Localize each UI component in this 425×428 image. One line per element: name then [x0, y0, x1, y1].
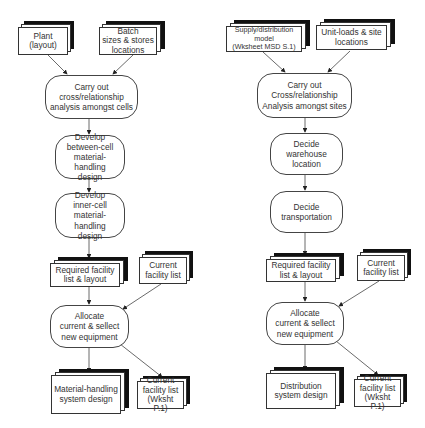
input-unit-loads-site-locations: Unit-loads & site locations — [316, 19, 395, 51]
input-supply-distribution-model: Supply/distribution model (Wksheet MSD S… — [226, 20, 310, 52]
arrow-unitloads-to-carry-out — [328, 51, 350, 72]
doc-current-facility-list: Current facility list — [139, 251, 193, 284]
arrow-plant-to-carry-out — [48, 55, 67, 74]
output-current-facility-list: Current facility list (Wksht P.1) — [137, 376, 190, 409]
output-distribution-system-design: Distribution system design — [266, 367, 344, 409]
process-allocate-equipment-right: Allocate current & sellect new equipment — [266, 302, 344, 345]
doc-required-facility-list: Required facility list & layout — [50, 257, 128, 287]
process-decide-transportation: Decide transportation — [270, 191, 343, 233]
doc-required-facility-list-right: Required facility list & layout — [266, 253, 344, 282]
input-batch-label: Batch sizes & stores locations — [102, 27, 154, 55]
process-between-cell-design: Develop between-cell material-handling d… — [55, 135, 125, 179]
arrow-current-to-allocate — [339, 281, 379, 306]
input-plant-layout: Plant (layout) — [18, 21, 74, 55]
arrow-batch-to-carry-out — [113, 55, 133, 74]
arrow-supply-to-carry-out — [263, 52, 285, 72]
arrow-current-to-allocate — [123, 284, 161, 309]
output-material-handling-design: Material-handling system design — [51, 369, 129, 415]
process-carry-out-sites: Carry out Cross/relationship Analysis am… — [257, 73, 352, 118]
doc-current-facility-list-right: Current facility list — [357, 249, 411, 281]
process-inner-cell-design: Develop inner-cell material- handling de… — [55, 193, 125, 238]
output-current-facility-list-right: Current facility list (Wksht P.1) — [354, 374, 407, 407]
process-allocate-equipment: Allocate current & sellect new equipment — [50, 305, 129, 348]
process-carry-out-cells: Carry out cross/relationship analysis am… — [45, 75, 138, 119]
input-plant-label: Plant (layout) — [29, 32, 57, 51]
input-batch-sizes: Batch sizes & stores locations — [99, 21, 165, 55]
process-decide-warehouse: Decide warehouse location — [270, 133, 343, 175]
